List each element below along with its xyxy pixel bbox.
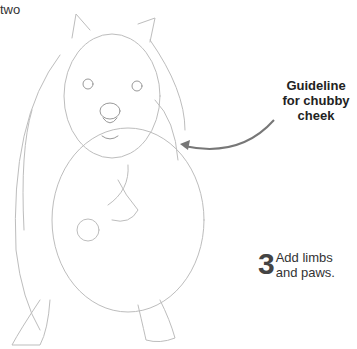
step-instruction: 3 Add limbs and paws.: [258, 249, 335, 280]
callout-line: for chubby: [275, 93, 357, 108]
arrowhead-icon: [180, 140, 190, 150]
head-outline: [64, 34, 160, 158]
step-text: Add limbs and paws.: [276, 250, 335, 280]
paw-left: [77, 219, 99, 241]
step-line: and paws.: [276, 265, 335, 280]
foot-right: [138, 300, 175, 342]
left-ear-icon: [72, 14, 90, 38]
callout-line: cheek: [275, 108, 357, 123]
body-left-outline: [15, 55, 60, 330]
callout-line: Guideline: [275, 78, 357, 93]
arrow-icon: [184, 120, 274, 149]
foot-left: [12, 300, 50, 345]
guideline-callout: Guideline for chubby cheek: [275, 78, 357, 123]
wombat-sketch-illustration: [0, 0, 357, 349]
step-number: 3: [258, 249, 274, 279]
step-line: Add limbs: [276, 250, 335, 265]
right-ear-icon: [138, 18, 155, 42]
